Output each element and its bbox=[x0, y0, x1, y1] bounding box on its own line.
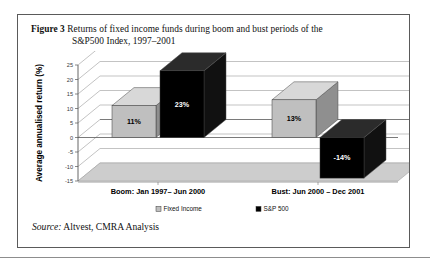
bar-data-label: 11% bbox=[127, 117, 142, 126]
figure-screenshot: Figure 3 Returns of fixed income funds d… bbox=[0, 0, 430, 267]
bar-s-p-500[interactable]: 23% bbox=[160, 53, 226, 138]
source-note: Source: Altvest, CMRA Analysis bbox=[32, 221, 159, 232]
source-label: Source: bbox=[32, 221, 61, 232]
y-axis-tick-label: -5 bbox=[68, 149, 73, 155]
bar-chart-3d: 2520151050-5-10-1511%23%Boom: Jan 1997– … bbox=[20, 51, 409, 219]
y-axis-tick-label: 20 bbox=[67, 77, 73, 83]
gridline-depth bbox=[78, 120, 100, 138]
chart-legend: Fixed IncomeS&P 500 bbox=[156, 205, 289, 212]
y-axis-tick-label: 5 bbox=[70, 120, 73, 126]
gridline-depth bbox=[78, 134, 100, 152]
black-square-marker bbox=[256, 206, 261, 211]
gridline-depth bbox=[78, 91, 100, 109]
figure-caption-line-1: Returns of fixed income funds during boo… bbox=[67, 24, 323, 34]
legend-label: S&P 500 bbox=[264, 205, 290, 212]
y-axis-tick-label: -10 bbox=[65, 164, 73, 170]
gridline-depth bbox=[78, 62, 100, 80]
y-axis-title: Average annualised return (%) bbox=[35, 64, 44, 182]
chart-area: 2520151050-5-10-1511%23%Boom: Jan 1997– … bbox=[20, 51, 409, 219]
source-value: Altvest, CMRA Analysis bbox=[63, 221, 159, 232]
gridline-depth bbox=[78, 149, 100, 167]
y-axis-tick-label: 10 bbox=[67, 106, 73, 112]
gridline-depth bbox=[78, 51, 100, 65]
category-label: Bust: Jun 2000 – Dec 2001 bbox=[272, 187, 365, 196]
y-axis-tick-label: 25 bbox=[67, 62, 73, 68]
figure-caption: Figure 3 Returns of fixed income funds d… bbox=[31, 23, 397, 47]
figure-number-label: Figure 3 bbox=[31, 24, 65, 34]
bar-data-label: 13% bbox=[287, 114, 302, 123]
y-axis-tick-label: 0 bbox=[70, 135, 73, 141]
gridline-depth bbox=[78, 105, 100, 123]
bar-data-label: 23% bbox=[175, 100, 190, 109]
bar-data-label: -14% bbox=[334, 153, 351, 162]
gridline-depth bbox=[78, 76, 100, 94]
figure-box: Figure 3 Returns of fixed income funds d… bbox=[17, 14, 410, 248]
legend-label: Fixed Income bbox=[164, 205, 203, 212]
gray-square-marker bbox=[156, 206, 161, 211]
category-label: Boom: Jan 1997– Jun 2000 bbox=[111, 187, 205, 196]
y-axis-tick-label: 15 bbox=[67, 91, 73, 97]
page-rule bbox=[0, 257, 430, 258]
y-axis-tick-label: -15 bbox=[65, 178, 73, 184]
figure-caption-line-2: S&P500 Index, 1997–2001 bbox=[31, 35, 397, 47]
